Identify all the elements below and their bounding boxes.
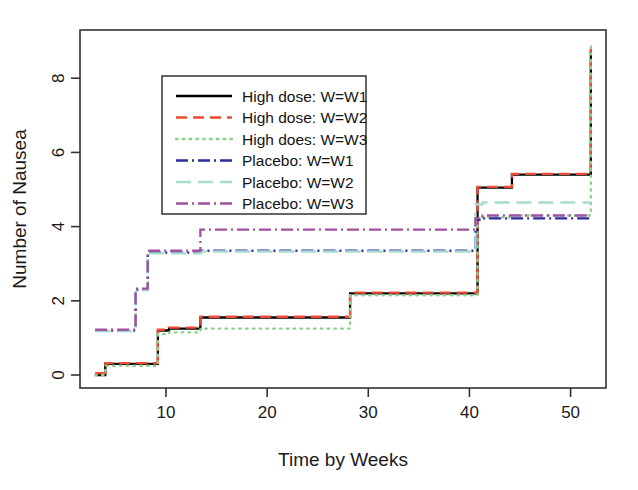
- y-tick-label: 2: [49, 296, 68, 305]
- legend: High dose: W=W1High dose: W=W2High does:…: [162, 76, 367, 214]
- y-tick-label: 4: [49, 222, 68, 231]
- legend-label-4: Placebo: W=W1: [242, 152, 354, 169]
- x-axis-label: Time by Weeks: [278, 449, 408, 470]
- chart-background: [0, 0, 638, 490]
- chart-root: 102030405002468 Time by Weeks Number of …: [0, 0, 638, 490]
- x-tick-label: 40: [460, 403, 479, 422]
- x-tick-label: 10: [157, 403, 176, 422]
- x-tick-label: 50: [561, 403, 580, 422]
- y-axis-label: Number of Nausea: [9, 129, 30, 289]
- x-tick-label: 20: [258, 403, 277, 422]
- legend-label-2: High dose: W=W2: [242, 109, 367, 126]
- nausea-step-chart: 102030405002468 Time by Weeks Number of …: [0, 0, 638, 490]
- legend-label-5: Placebo: W=W2: [242, 174, 354, 191]
- legend-label-6: Placebo: W=W3: [242, 195, 354, 212]
- y-tick-label: 8: [49, 73, 68, 82]
- y-tick-label: 0: [49, 370, 68, 379]
- legend-label-1: High dose: W=W1: [242, 88, 367, 105]
- y-tick-label: 6: [49, 148, 68, 157]
- legend-label-3: High does: W=W3: [242, 131, 367, 148]
- x-tick-label: 30: [359, 403, 378, 422]
